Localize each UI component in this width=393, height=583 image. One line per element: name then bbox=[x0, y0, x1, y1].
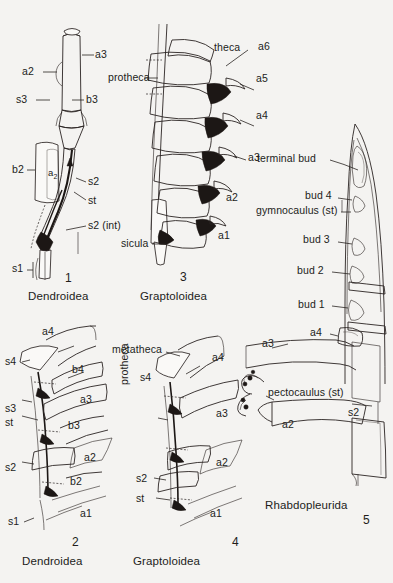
panel4-caption: Graptoloidea bbox=[133, 556, 200, 568]
panel3-label-a1: a1 bbox=[218, 230, 230, 241]
panel2-label-a3: a3 bbox=[80, 394, 92, 405]
panel4-label-a1: a1 bbox=[210, 508, 222, 519]
panel2-label-a1: a1 bbox=[80, 508, 92, 519]
panel4-label-st: st bbox=[136, 493, 144, 504]
panel5-number: 5 bbox=[363, 514, 370, 526]
panel4-label-a4: a4 bbox=[212, 352, 224, 363]
panel2-label-b2: b2 bbox=[70, 476, 82, 487]
panel2-label-a4: a4 bbox=[42, 326, 54, 337]
panel2-label-a2: a2 bbox=[84, 452, 96, 463]
panel2-label-s1: s1 bbox=[8, 516, 19, 527]
panel2-label-s3: s3 bbox=[5, 403, 16, 414]
panel2-label-b3: b3 bbox=[68, 420, 80, 431]
panel3-caption: Graptoloidea bbox=[140, 291, 207, 303]
panel1-label-b2: b2 bbox=[12, 164, 24, 175]
figure-plate: a3 a2 s3 b3 b2 a2 s2 st s2 (int) s1 1 De… bbox=[0, 0, 393, 583]
panel4-label-s2: s2 bbox=[136, 473, 147, 484]
panel-1-artwork bbox=[27, 29, 84, 281]
panel3-label-sicula: sicula bbox=[121, 238, 148, 249]
panel5-label-terminal-bud: terminal bud bbox=[257, 153, 316, 164]
panel1-label-s2-int: s2 (int) bbox=[88, 220, 121, 231]
panel2-label-b4: b4 bbox=[72, 364, 84, 375]
panel5-label-bud-1: bud 1 bbox=[298, 299, 325, 310]
panel1-label-s3: s3 bbox=[16, 94, 27, 105]
panel5-caption: Rhabdopleurida bbox=[265, 500, 348, 512]
panel1-label-s1: s1 bbox=[12, 263, 23, 274]
panel3-label-a6: a6 bbox=[258, 41, 270, 52]
panel3-label-a4: a4 bbox=[256, 110, 268, 121]
panel2-label-s4: s4 bbox=[5, 356, 16, 367]
panel4-number: 4 bbox=[232, 536, 239, 548]
panel3-label-a5: a5 bbox=[256, 73, 268, 84]
panel2-caption: Dendroidea bbox=[22, 556, 82, 568]
panel5-label-a4: a4 bbox=[310, 327, 322, 338]
panel1-number: 1 bbox=[65, 272, 72, 284]
panel5-label-s2: s2 bbox=[348, 407, 359, 418]
panel3-label-theca: theca bbox=[214, 42, 240, 53]
panel5-label-bud-3: bud 3 bbox=[303, 234, 330, 245]
panel1-label-a2-sub: a2 bbox=[48, 168, 57, 180]
panel5-label-pectocaulus: pectocaulus (st) bbox=[268, 387, 344, 398]
panel-4-artwork bbox=[156, 336, 242, 526]
panel3-label-protheca: protheca bbox=[108, 72, 150, 83]
panel5-label-bud-4: bud 4 bbox=[305, 190, 332, 201]
panel1-label-a3: a3 bbox=[95, 49, 107, 60]
panel5-label-a3: a3 bbox=[262, 338, 274, 349]
panel4-label-a2: a2 bbox=[216, 457, 228, 468]
panel1-label-st: st bbox=[88, 195, 96, 206]
panel5-label-a2: a2 bbox=[282, 419, 294, 430]
panel5-label-bud-2: bud 2 bbox=[297, 265, 324, 276]
panel3-number: 3 bbox=[180, 271, 187, 283]
panel-3-artwork bbox=[146, 24, 245, 265]
panel4-label-a3: a3 bbox=[216, 408, 228, 419]
panel2-label-s2: s2 bbox=[5, 462, 16, 473]
panel1-label-a2: a2 bbox=[22, 66, 34, 77]
panel1-label-s2: s2 bbox=[88, 176, 99, 187]
panel1-caption: Dendroidea bbox=[28, 291, 88, 303]
panel1-label-b3: b3 bbox=[86, 94, 98, 105]
panel2-number: 2 bbox=[72, 536, 79, 548]
panel3-label-a2: a2 bbox=[226, 192, 238, 203]
panel5-label-gymnocaulus: gymnocaulus (st) bbox=[256, 205, 338, 216]
panel4-label-s4: s4 bbox=[140, 372, 151, 383]
panel2-label-st: st bbox=[5, 417, 13, 428]
panel4-label-protheca: protheca bbox=[119, 343, 130, 385]
panel-2-artwork bbox=[20, 326, 112, 530]
leader-lines bbox=[22, 50, 378, 522]
